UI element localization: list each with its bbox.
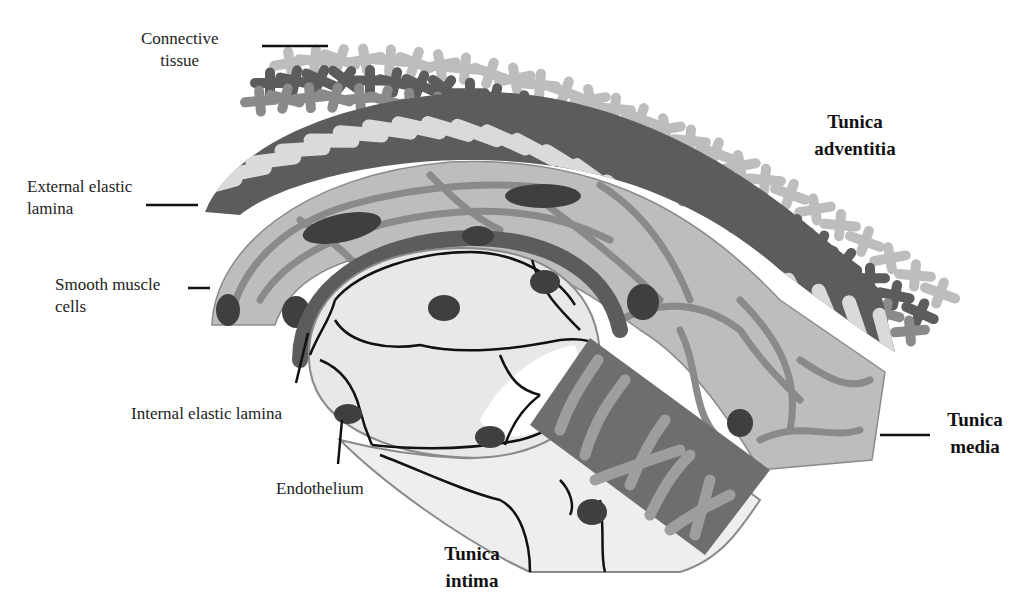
label-line: Tunica [930, 406, 1020, 433]
label-line: lamina [27, 198, 132, 220]
label-line: Tunica [432, 540, 512, 567]
nucleus [475, 426, 505, 448]
label-line: External elastic [27, 176, 132, 198]
label-tunica-media: Tunica media [930, 406, 1020, 460]
nucleus [627, 284, 659, 320]
label-internal-elastic-lamina: Internal elastic lamina [131, 403, 282, 425]
label-line: intima [432, 567, 512, 594]
label-tunica-intima: Tunica intima [432, 540, 512, 594]
nucleus [530, 270, 560, 294]
label-line: Connective [141, 28, 218, 50]
label-external-elastic-lamina: External elastic lamina [27, 176, 132, 220]
nucleus [577, 499, 607, 525]
nucleus [505, 184, 581, 208]
label-line: Tunica [790, 108, 920, 135]
label-line: cells [55, 296, 160, 318]
label-line: tissue [141, 50, 218, 72]
label-line: Endothelium [276, 478, 364, 500]
label-connective-tissue: Connective tissue [141, 28, 218, 72]
nucleus [727, 409, 753, 437]
nucleus [334, 404, 362, 424]
label-line: Internal elastic lamina [131, 403, 282, 425]
nucleus [216, 294, 240, 326]
label-line: Smooth muscle [55, 274, 160, 296]
label-line: adventitia [790, 135, 920, 162]
label-endothelium: Endothelium [276, 478, 364, 500]
nucleus [462, 226, 494, 246]
nucleus [428, 295, 460, 321]
label-smooth-muscle-cells: Smooth muscle cells [55, 274, 160, 318]
label-line: media [930, 433, 1020, 460]
label-tunica-adventitia: Tunica adventitia [790, 108, 920, 162]
